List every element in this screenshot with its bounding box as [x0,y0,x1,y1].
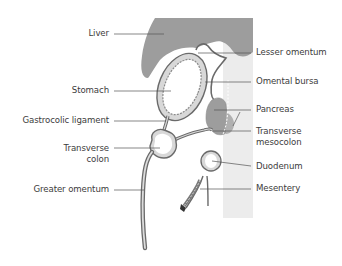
label-transverse-colon-line2: colon [64,154,109,165]
label-transverse-colon-line1: Transverse [64,143,109,154]
label-pancreas: Pancreas [256,104,294,115]
label-transverse-mesocolon: Transverse mesocolon [256,126,302,147]
mesentery-membrane [186,176,208,208]
label-lesser-omentum: Lesser omentum [256,47,327,58]
label-liver: Liver [88,28,109,39]
label-transverse-mesocolon-line2: mesocolon [256,137,302,148]
lesser-omentum-inner [197,47,206,52]
transverse-colon-lumen [154,134,172,154]
label-transverse-colon: Transverse colon [64,143,109,164]
label-duodenum: Duodenum [256,161,303,172]
label-stomach: Stomach [72,85,109,96]
label-transverse-mesocolon-line1: Transverse [256,126,302,137]
label-greater-omentum: Greater omentum [33,184,109,195]
peritoneum-diagram: Liver Stomach Gastrocolic ligament Trans… [0,0,342,266]
duodenum-lumen [205,154,217,168]
label-mesentery: Mesentery [256,183,300,194]
label-omental-bursa: Omental bursa [256,76,319,87]
label-gastrocolic-ligament: Gastrocolic ligament [22,115,109,126]
